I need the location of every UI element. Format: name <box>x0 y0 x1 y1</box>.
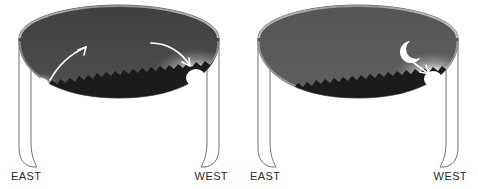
sunset-panel: EAST WEST <box>0 0 239 189</box>
west-label-right: WEST <box>434 170 467 182</box>
west-label-left: WEST <box>195 170 228 182</box>
sky-bowl-figure: EAST WEST <box>0 0 478 189</box>
sun-west-disc <box>186 69 206 87</box>
sky-region <box>239 0 478 189</box>
crescent-moon <box>389 30 439 78</box>
sky-region <box>0 0 239 189</box>
crescent-moon-panel: EAST WEST <box>239 0 478 189</box>
bowl-interior <box>247 98 469 142</box>
sun-east-disc <box>33 78 49 94</box>
bowl-interior <box>8 96 230 140</box>
east-label-left: EAST <box>11 170 41 182</box>
east-label-right: EAST <box>250 170 280 182</box>
